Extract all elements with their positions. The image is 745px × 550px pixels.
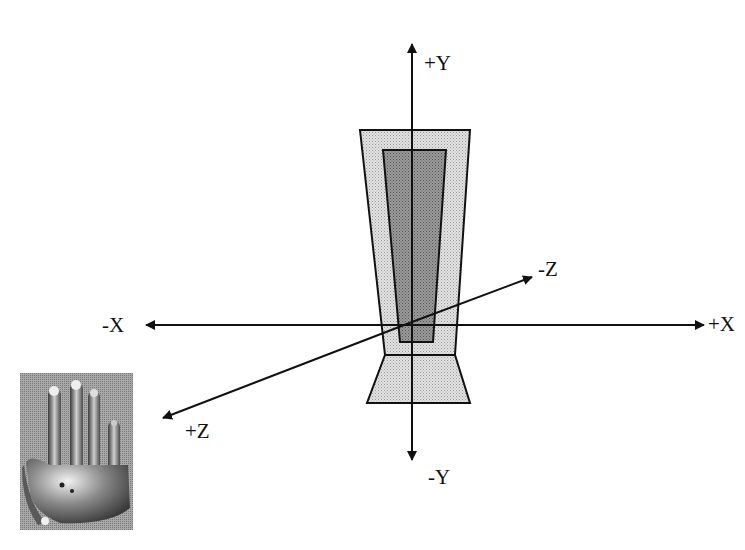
base-shape xyxy=(367,355,470,403)
finger-2 xyxy=(70,383,83,471)
hand-illustration xyxy=(20,373,133,530)
robot-hand-image xyxy=(20,373,133,530)
label-minus-y: -Y xyxy=(428,465,450,489)
label-plus-x: +X xyxy=(708,312,735,336)
label-minus-x: -X xyxy=(102,313,124,337)
finger-3 xyxy=(88,391,100,471)
label-plus-y: +Y xyxy=(424,51,451,75)
label-plus-z: +Z xyxy=(185,419,210,443)
label-minus-z: -Z xyxy=(538,257,558,281)
finger-1 xyxy=(48,389,61,471)
